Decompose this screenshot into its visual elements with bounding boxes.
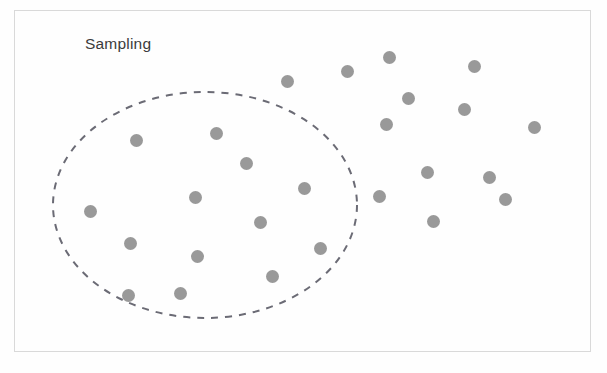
data-point	[380, 118, 393, 131]
data-point	[341, 65, 354, 78]
data-point	[528, 121, 541, 134]
data-point	[130, 134, 143, 147]
data-point	[383, 51, 396, 64]
data-point	[191, 250, 204, 263]
data-point	[84, 205, 97, 218]
data-point	[421, 166, 434, 179]
sampling-diagram: Sampling	[0, 0, 607, 373]
data-point	[458, 103, 471, 116]
data-point	[240, 157, 253, 170]
data-point	[174, 287, 187, 300]
data-point	[427, 215, 440, 228]
data-point	[499, 193, 512, 206]
data-point	[298, 182, 311, 195]
data-point	[483, 171, 496, 184]
data-point	[189, 191, 202, 204]
data-point	[124, 237, 137, 250]
diagram-frame	[14, 10, 591, 352]
data-point	[314, 242, 327, 255]
data-point	[373, 190, 386, 203]
data-point	[468, 60, 481, 73]
data-point	[254, 216, 267, 229]
sampling-label: Sampling	[85, 35, 151, 53]
data-point	[266, 270, 279, 283]
data-point	[210, 127, 223, 140]
data-point	[122, 289, 135, 302]
data-point	[281, 75, 294, 88]
data-point	[402, 92, 415, 105]
